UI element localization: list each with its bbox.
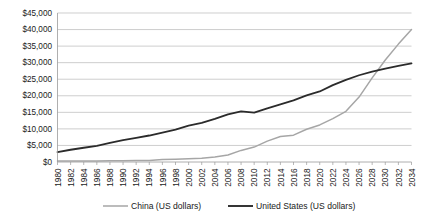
x-axis-tick-label: 2002 [198,168,207,187]
x-axis-tick-label: 2012 [263,168,272,187]
y-axis-tick-label: $5,000 [27,141,52,150]
x-axis-tick-label: 1988 [106,168,115,187]
x-axis-tick-label: 1998 [172,168,181,187]
series-line-china [58,30,412,161]
y-axis-tick-label: $30,000 [22,58,52,67]
chart-container: $0$5,000$10,000$15,000$20,000$25,000$30,… [0,0,434,221]
data-series [58,30,412,161]
series-line-united-states [58,63,412,152]
x-axis-tick-label: 1992 [132,168,141,187]
y-axis-tick-label: $0 [43,158,53,167]
gridlines [58,13,412,145]
x-axis-tick-label: 1994 [145,168,154,187]
x-axis-tick-label: 2010 [250,168,259,187]
y-axis-tick-label: $20,000 [22,91,52,100]
x-axis-tick-label: 2022 [329,168,338,187]
y-axis-tick-label: $40,000 [22,25,52,34]
x-axis-tick-marks [58,162,412,165]
x-axis-tick-label: 2004 [211,168,220,187]
x-axis-tick-label: 1986 [93,168,102,187]
legend-label-united-states: United States (US dollars) [256,201,355,211]
x-axis-tick-label: 2034 [408,168,417,187]
x-axis-tick-label: 2032 [395,168,404,187]
x-axis-tick-label: 2024 [342,168,351,187]
x-axis-tick-label: 2016 [290,168,299,187]
x-axis-tick-label: 1982 [67,168,76,187]
x-axis-tick-label: 2026 [355,168,364,187]
x-axis-tick-label: 2018 [303,168,312,187]
x-axis-tick-label: 1980 [54,168,63,187]
line-chart: $0$5,000$10,000$15,000$20,000$25,000$30,… [0,0,434,221]
y-axis-tick-label: $45,000 [22,9,52,18]
x-axis-tick-label: 2014 [277,168,286,187]
y-axis-tick-label: $10,000 [22,125,52,134]
x-axis-tick-label: 2008 [237,168,246,187]
x-axis-tick-labels: 1980198219841986198819901992199419961998… [54,168,417,187]
chart-legend: China (US dollars)United States (US doll… [103,201,355,211]
y-axis-tick-labels: $0$5,000$10,000$15,000$20,000$25,000$30,… [22,9,52,167]
x-axis-tick-label: 2028 [368,168,377,187]
x-axis-tick-label: 2006 [224,168,233,187]
axis-lines [58,13,412,162]
x-axis-tick-label: 1984 [80,168,89,187]
x-axis-tick-label: 1990 [119,168,128,187]
x-axis-tick-label: 1996 [159,168,168,187]
x-axis-tick-label: 2030 [381,168,390,187]
y-axis-tick-label: $25,000 [22,75,52,84]
x-axis-tick-label: 2020 [316,168,325,187]
y-axis-tick-label: $15,000 [22,108,52,117]
legend-label-china: China (US dollars) [131,201,201,211]
x-axis-tick-label: 2000 [185,168,194,187]
y-axis-tick-label: $35,000 [22,42,52,51]
